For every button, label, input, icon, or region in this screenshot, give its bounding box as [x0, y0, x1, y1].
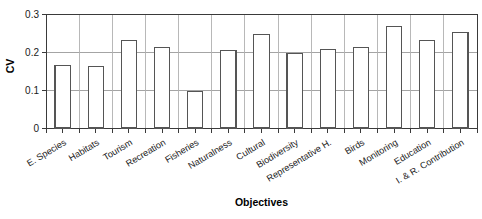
bar-tourism	[121, 41, 136, 128]
bar-i-r-contribution	[453, 32, 468, 128]
bar-fisheries	[188, 92, 203, 128]
bar-e-species	[55, 65, 70, 128]
bar-chart: 00.10.20.3E. SpeciesHabitatsTourismRecre…	[0, 0, 482, 219]
chart-figure: 00.10.20.3E. SpeciesHabitatsTourismRecre…	[0, 0, 482, 219]
bar-representative-h	[320, 50, 335, 128]
x-tick-label-0: E. Species	[25, 137, 68, 168]
y-tick-label-0.1: 0.1	[25, 85, 39, 96]
bar-cultural	[254, 35, 269, 128]
bar-education	[420, 40, 435, 128]
y-tick-label-0: 0	[33, 123, 39, 134]
bar-birds	[353, 47, 368, 128]
bar-recreation	[154, 47, 169, 128]
y-tick-label-0.2: 0.2	[25, 47, 39, 58]
bar-habitats	[88, 66, 103, 128]
bar-biodiversity	[287, 54, 302, 128]
y-axis-title: CV	[4, 59, 16, 74]
x-tick-label-1: Habitats	[67, 137, 101, 163]
x-tick-label-9: Birds	[343, 137, 366, 157]
y-tick-label-0.3: 0.3	[25, 9, 39, 20]
x-axis-title: Objectives	[235, 196, 288, 208]
bar-naturalness	[221, 51, 236, 128]
bar-monitoring	[386, 27, 401, 128]
